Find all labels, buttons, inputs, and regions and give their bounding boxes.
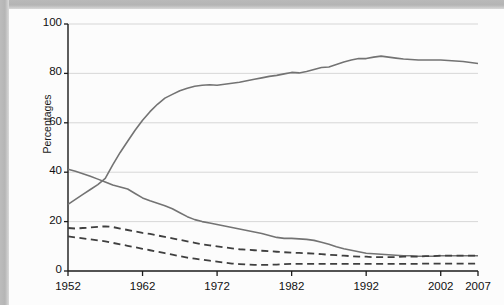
x-tick-label-1982: 1982: [267, 280, 317, 292]
x-tick-label-2007: 2007: [453, 280, 503, 292]
line-chart: Percentages 020406080100 195219621972198…: [0, 0, 504, 305]
plot-svg: [0, 0, 504, 305]
chart-screenshot: Percentages 020406080100 195219621972198…: [0, 0, 504, 305]
axis-ticks: [64, 24, 478, 276]
y-tick-label-40: 40: [26, 164, 62, 176]
series-dashed-upper: [68, 226, 478, 257]
x-tick-label-1962: 1962: [118, 280, 168, 292]
page-edge-top: [0, 0, 504, 9]
y-tick-label-60: 60: [26, 115, 62, 127]
y-tick-label-20: 20: [26, 214, 62, 226]
y-tick-label-100: 100: [26, 16, 62, 28]
data-series: [68, 56, 478, 265]
x-tick-label-1992: 1992: [341, 280, 391, 292]
axis-lines: [68, 24, 478, 271]
gridlines: [68, 24, 478, 222]
x-tick-label-1952: 1952: [43, 280, 93, 292]
series-rising-solid: [68, 56, 478, 204]
page-edge-left: [0, 0, 9, 305]
y-tick-label-80: 80: [26, 65, 62, 77]
y-tick-label-0: 0: [26, 263, 62, 275]
x-tick-label-1972: 1972: [192, 280, 242, 292]
series-declining-solid: [68, 169, 478, 256]
